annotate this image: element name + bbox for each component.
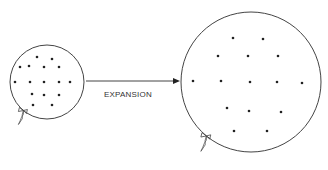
galaxy-dot: [69, 81, 72, 84]
galaxy-dot: [217, 55, 220, 58]
galaxy-dot: [266, 130, 269, 133]
galaxy-dot: [51, 104, 54, 107]
galaxy-dot: [14, 81, 17, 84]
galaxy-dot: [232, 37, 235, 40]
expansion-arrow-icon: [86, 78, 180, 84]
galaxy-dot: [51, 58, 54, 61]
galaxy-dot: [43, 66, 46, 69]
galaxy-dot: [280, 111, 283, 114]
galaxy-dot: [248, 110, 251, 113]
balloon-outline: [10, 45, 84, 119]
galaxy-dot: [32, 104, 35, 107]
galaxy-dot: [226, 107, 229, 110]
expansion-diagram: [0, 0, 328, 170]
galaxy-dot: [247, 55, 250, 58]
galaxy-dot: [58, 66, 61, 69]
galaxy-dot: [58, 81, 61, 84]
expansion-label: EXPANSION: [98, 90, 158, 99]
galaxy-dot: [58, 94, 61, 97]
small-balloon: [10, 45, 84, 125]
galaxy-dot: [19, 66, 22, 69]
balloon-knot-icon: [201, 133, 211, 152]
galaxy-dot: [192, 80, 195, 83]
balloon-knot-icon: [18, 108, 27, 125]
galaxy-dot: [301, 82, 304, 85]
galaxy-dot: [36, 56, 39, 59]
galaxy-dot: [276, 81, 279, 84]
galaxy-dot: [28, 65, 31, 68]
galaxy-dot: [249, 81, 252, 84]
galaxy-dot: [233, 130, 236, 133]
galaxy-dot: [262, 38, 265, 41]
galaxy-dot: [43, 81, 46, 84]
galaxy-dot: [31, 93, 34, 96]
galaxy-dot: [277, 55, 280, 58]
galaxy-dot: [29, 81, 32, 84]
galaxy-dot: [220, 80, 223, 83]
galaxy-dot: [43, 94, 46, 97]
large-balloon: [181, 12, 321, 152]
